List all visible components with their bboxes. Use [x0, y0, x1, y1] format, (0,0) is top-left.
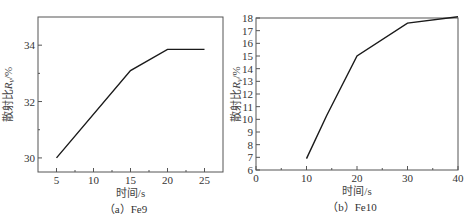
x-axis-label: 时间/s — [116, 187, 145, 199]
figure-caption: （b）Fe10 — [327, 201, 377, 213]
y-tick-label: 17 — [242, 25, 254, 37]
y-tick-label: 14 — [242, 63, 254, 75]
y-tick-label: 30 — [24, 152, 36, 164]
plot-frame — [38, 17, 223, 172]
y-tick-label: 16 — [242, 37, 254, 49]
data-line — [307, 17, 459, 159]
x-axis-label: 时间/s — [342, 185, 371, 197]
chart-fe10: 0102030406789101112131415161718时间/s散射比Rv… — [229, 12, 464, 213]
y-tick-label: 10 — [242, 113, 254, 125]
x-tick-label: 30 — [402, 172, 414, 184]
x-tick-label: 10 — [88, 174, 100, 186]
y-axis-label: 散射比Rv/% — [229, 66, 244, 122]
figure: 510152025303234时间/s散射比Rv/%（a）Fe9 0102030… — [0, 0, 473, 223]
y-tick-label: 18 — [242, 12, 254, 24]
x-tick-label: 25 — [199, 174, 211, 186]
y-tick-label: 32 — [24, 96, 35, 108]
y-tick-label: 7 — [248, 151, 254, 163]
figure-caption: （a）Fe9 — [104, 203, 148, 215]
y-tick-label: 15 — [242, 50, 254, 62]
data-line — [57, 49, 205, 158]
y-tick-label: 6 — [248, 164, 254, 176]
x-tick-label: 20 — [352, 172, 364, 184]
plot-frame — [256, 18, 458, 170]
x-tick-label: 40 — [453, 172, 465, 184]
y-axis-label: 散射比Rv/% — [1, 67, 16, 123]
y-tick-label: 12 — [242, 88, 253, 100]
y-tick-label: 11 — [242, 101, 253, 113]
x-tick-label: 15 — [125, 174, 137, 186]
x-tick-label: 0 — [253, 172, 259, 184]
chart-fe9: 510152025303234时间/s散射比Rv/%（a）Fe9 — [1, 17, 223, 215]
y-tick-label: 8 — [248, 139, 254, 151]
x-tick-label: 20 — [162, 174, 174, 186]
y-tick-label: 9 — [248, 126, 254, 138]
x-tick-label: 5 — [54, 174, 60, 186]
x-tick-label: 10 — [301, 172, 313, 184]
y-tick-label: 34 — [24, 39, 36, 51]
